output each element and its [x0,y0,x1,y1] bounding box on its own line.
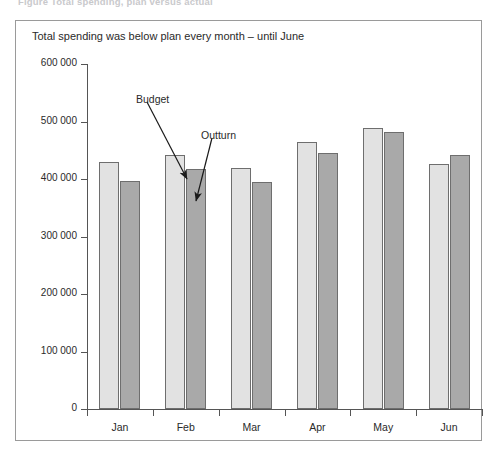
bar-mar-outturn[interactable] [252,182,272,409]
annotation-label-budget: Budget [136,93,169,105]
y-tick-label: 200 000 [41,287,77,298]
y-tick-600000: 600 000 [81,64,88,65]
y-tick-100000: 100 000 [81,352,88,353]
x-label-feb: Feb [153,421,219,433]
x-label-apr: Apr [285,421,351,433]
y-tick-400000: 400 000 [81,179,88,180]
bar-jun-budget[interactable] [429,164,449,409]
y-tick-mark [81,352,88,353]
bar-apr-outturn[interactable] [318,153,338,409]
x-label-jan: Jan [87,421,153,433]
y-tick-mark [81,64,88,65]
plot-area: 600 000500 000400 000300 000200 000100 0… [72,64,482,409]
bar-mar-budget[interactable] [231,168,251,409]
y-tick-mark [81,237,88,238]
y-tick-mark [81,179,88,180]
bar-jun-outturn[interactable] [450,155,470,409]
x-tick-mark [219,409,220,416]
y-tick-label: 400 000 [41,172,77,183]
bar-feb-outturn[interactable] [186,169,206,409]
bar-jan-budget[interactable] [99,162,119,409]
y-tick-500000: 500 000 [81,122,88,123]
bar-jan-outturn[interactable] [120,181,140,409]
x-label-jun: Jun [416,421,482,433]
x-tick-mark [153,409,154,416]
bar-may-budget[interactable] [363,128,383,409]
x-label-may: May [350,421,416,433]
y-tick-mark [81,294,88,295]
x-tick-mark [482,409,483,416]
x-label-mar: Mar [219,421,285,433]
y-tick-label: 0 [71,402,77,413]
y-tick-label: 300 000 [41,230,77,241]
y-tick-label: 600 000 [41,57,77,68]
y-tick-200000: 200 000 [81,294,88,295]
figure-box: Total spending was below plan every mont… [15,20,482,441]
y-tick-label: 100 000 [41,345,77,356]
y-tick-mark [81,122,88,123]
x-tick-mark [285,409,286,416]
y-tick-300000: 300 000 [81,237,88,238]
figure-caption: Figure Total spending, plan versus actua… [18,0,438,8]
x-tick-mark [87,409,88,416]
bar-apr-budget[interactable] [297,142,317,409]
x-tick-mark [416,409,417,416]
chart-title: Total spending was below plan every mont… [32,30,304,42]
bar-may-outturn[interactable] [384,132,404,409]
bar-feb-budget[interactable] [165,155,185,409]
x-tick-mark [350,409,351,416]
y-tick-label: 500 000 [41,115,77,126]
annotation-label-outturn: Outturn [201,129,236,141]
